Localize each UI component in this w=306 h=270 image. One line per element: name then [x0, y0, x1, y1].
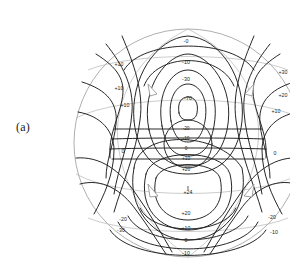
contour-left-b	[82, 82, 116, 178]
contour-label-top-30: -30	[182, 76, 190, 82]
contour-label-top-0: -0	[184, 38, 189, 44]
contour-label-left-b: +10	[114, 85, 123, 91]
contour-plot: -0 -10 -30 -70 -20 -10 0 +10 +20 +24 +20…	[62, 8, 290, 262]
contour-right-e	[262, 112, 290, 214]
contour-label-left-m30: -30	[117, 227, 125, 233]
contour-label-left-0: 0	[122, 148, 125, 154]
contour-label-top-lobe: -70	[184, 95, 192, 101]
contour-center-zero	[110, 148, 266, 149]
contour-label-right-m20: -20	[268, 214, 276, 220]
contour-label-center-0: 0	[185, 146, 188, 151]
contour-top-0	[124, 46, 254, 70]
contour-label-left-c: +10	[120, 102, 129, 108]
contour-label-right-m10: -10	[270, 229, 278, 235]
contour-minus10-loop	[147, 54, 228, 166]
contour-left-a	[96, 54, 123, 158]
contour-label-bot-p20: +20	[181, 210, 190, 216]
contour-label-bot-m10: -10	[182, 250, 190, 256]
contour-label-center-p20: +20	[182, 167, 190, 172]
figure-root: (a)	[0, 0, 306, 270]
contour-label-top-10: -10	[182, 59, 190, 65]
contour-label-bot-0: 0	[185, 237, 188, 243]
contour-label-bot-p10: +10	[181, 225, 190, 231]
contour-minus50-loop	[170, 84, 206, 142]
marker-lower-left-icon	[148, 184, 158, 197]
contour-label-left-a: +10	[114, 61, 123, 67]
marker-upper-right-icon	[245, 84, 254, 96]
contour-right-a	[253, 54, 280, 158]
contour-label-right-p30: +30	[278, 69, 287, 75]
contour-label-right-p10: +10	[271, 108, 280, 114]
contour-label-center-p10: +10	[182, 156, 190, 161]
contour-label-left-m20: -20	[119, 216, 127, 222]
contour-label-center-m20: -20	[183, 126, 190, 131]
contour-right-c	[244, 44, 270, 194]
contour-label-right-0: 0	[274, 150, 277, 156]
contour-label-center-m10: -10	[183, 136, 190, 141]
contour-label-right-p20: +20	[278, 92, 287, 98]
panel-label: (a)	[16, 120, 30, 135]
contour-label-bottom-lobe: +24	[183, 189, 192, 195]
contour-left-e	[78, 112, 114, 214]
contour-right-d	[235, 36, 262, 212]
contour-plot-svg: -0 -10 -30 -70 -20 -10 0 +10 +20 +24 +20…	[62, 8, 290, 262]
